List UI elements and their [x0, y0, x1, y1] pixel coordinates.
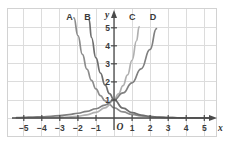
coordinate-plane: [0, 0, 225, 147]
exponential-functions-figure: y x O −5−4−3−2−11234512345 ABCD: [0, 0, 225, 147]
y-tick-label: 2: [102, 78, 110, 87]
curve-label-c: C: [129, 13, 136, 22]
curve-label-d: D: [150, 13, 157, 22]
x-tick-label: −5: [19, 124, 29, 133]
x-tick-label: 2: [145, 124, 155, 133]
origin-label: O: [117, 123, 124, 133]
curve-label-b: B: [84, 13, 91, 22]
x-tick-label: −3: [55, 124, 65, 133]
x-tick-label: 1: [127, 124, 137, 133]
y-axis-label: y: [105, 11, 109, 21]
curve-label-a: A: [66, 13, 73, 22]
x-tick-label: 3: [163, 124, 173, 133]
y-tick-label: 3: [102, 60, 110, 69]
x-tick-label: −4: [37, 124, 47, 133]
y-tick-label: 5: [102, 24, 110, 33]
x-tick-label: 4: [181, 124, 191, 133]
x-axis-label: x: [218, 124, 223, 134]
x-tick-label: 5: [199, 124, 209, 133]
y-tick-label: 4: [102, 42, 110, 51]
x-tick-label: −2: [73, 124, 83, 133]
figure-background: [0, 0, 225, 147]
y-tick-label: 1: [102, 96, 110, 105]
x-tick-label: −1: [91, 124, 101, 133]
